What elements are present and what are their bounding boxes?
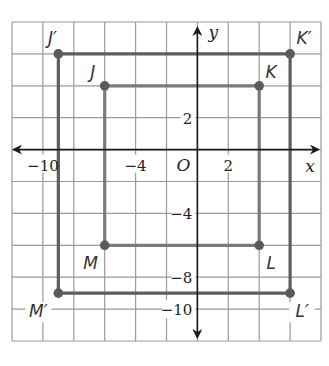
image-vertex-label: K′ [297,28,312,48]
original-vertex-label: L [266,253,275,273]
y-tick-label: −4 [170,205,192,223]
y-tick-label: −10 [161,301,193,319]
y-tick-label: 2 [183,110,193,128]
original-vertex-point [100,241,110,251]
image-vertex-point [285,288,295,298]
original-vertex-point [254,81,264,91]
x-tick-label: −10 [27,157,59,175]
image-vertex-label: M′ [29,301,48,321]
x-axis-label: x [305,156,315,176]
x-tick-label: −4 [125,157,147,175]
coordinate-plane: −10−422−4−8−10OxyJKLMJ′K′L′M′ [0,0,329,366]
original-vertex-label: K [266,62,279,82]
image-vertex-point [285,49,295,59]
y-axis-label: y [208,22,219,42]
image-vertex-point [54,49,64,59]
original-vertex-label: M [83,253,98,273]
original-vertex-point [254,241,264,251]
original-vertex-point [100,81,110,91]
original-vertex-label: J [87,62,95,82]
x-tick-label: 2 [224,157,234,175]
origin-label: O [176,155,190,175]
image-vertex-label: L′ [295,301,308,321]
y-tick-label: −8 [170,269,192,287]
labels: −10−422−4−8−10OxyJKLMJ′K′L′M′ [27,22,315,321]
image-vertex-label: J′ [45,28,57,48]
image-vertex-point [54,288,64,298]
